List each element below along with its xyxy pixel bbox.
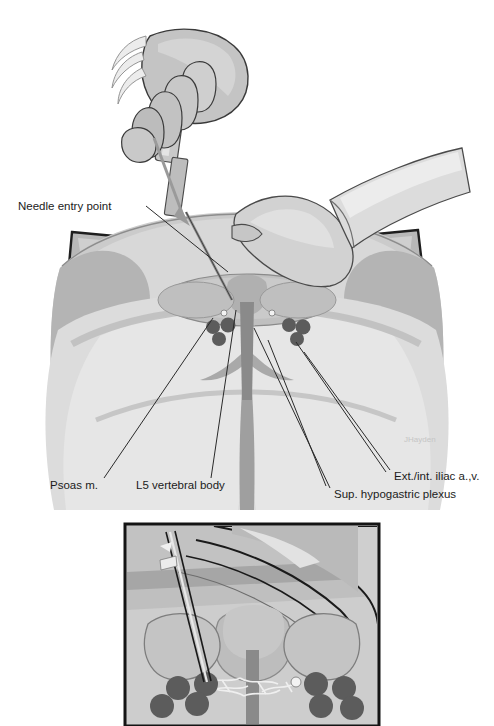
inset-plexus-marker-right <box>291 677 301 687</box>
plexus-marker-left <box>221 310 227 316</box>
inset-panel <box>125 524 379 726</box>
label-ext-int-iliac: Ext./int. iliac a.,v. <box>394 470 479 482</box>
label-sup-hypogastric-plexus: Sup. hypogastric plexus <box>334 488 456 500</box>
inset-psoas-right <box>284 614 359 680</box>
label-l5-vertebral-body: L5 vertebral body <box>136 479 225 491</box>
medical-illustration-figure: JHayden Needle entry point Psoas m. L5 v… <box>0 0 494 726</box>
artist-signature: JHayden <box>404 435 436 444</box>
inset-spine-column <box>246 650 259 726</box>
label-psoas-muscle: Psoas m. <box>50 479 98 491</box>
label-needle-entry-point: Needle entry point <box>18 200 112 212</box>
plexus-marker-right <box>269 310 275 316</box>
spine-column <box>240 302 254 400</box>
